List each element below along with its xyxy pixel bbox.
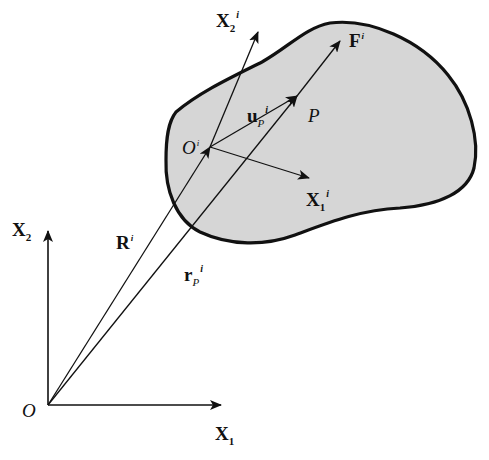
- label-body-x2: X2i: [216, 11, 239, 30]
- label-global-x2: X2: [12, 220, 31, 239]
- label-body-origin: Oi: [182, 138, 199, 157]
- diagram-graphics: [0, 0, 489, 460]
- label-vector-R: Ri: [116, 233, 133, 252]
- label-point-P: P: [308, 106, 320, 125]
- label-origin-O: O: [22, 401, 36, 420]
- label-global-x1: X1: [215, 424, 234, 443]
- label-body-x1: X1i: [306, 190, 329, 209]
- label-vector-u-P: uPi: [247, 106, 268, 125]
- label-vector-r-P: rPi: [184, 265, 203, 284]
- rigid-body-diagram: O X1 X2 X2i X1i Oi P Fi uPi Ri rPi: [0, 0, 489, 460]
- label-vector-F: Fi: [349, 31, 364, 50]
